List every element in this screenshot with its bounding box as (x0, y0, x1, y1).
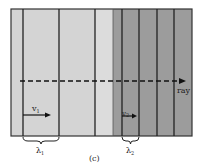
lambda2-label: λ2 (126, 146, 134, 156)
lambda2-brace (122, 137, 139, 144)
lambda1-brace (23, 137, 59, 144)
v2-label: v2 (121, 110, 129, 118)
figure-caption: (c) (89, 154, 100, 163)
ray-label: ray (177, 86, 191, 95)
wave-refraction-diagram: ray v1 v2 λ1 λ2 (c) (0, 0, 204, 166)
lambda1-label: λ1 (36, 146, 44, 156)
medium-1-band (95, 9, 113, 136)
